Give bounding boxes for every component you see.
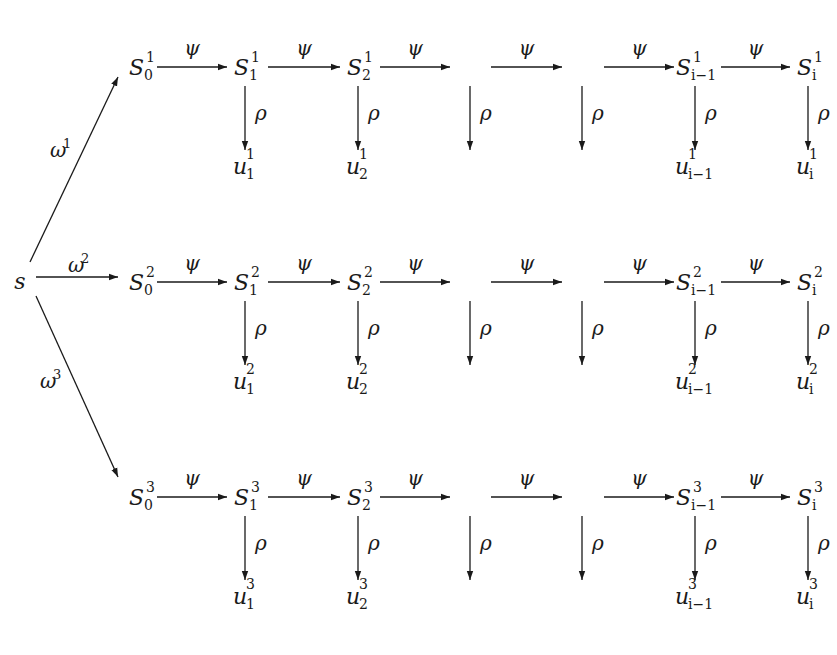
output-u-row3-col2: u23 <box>346 576 368 612</box>
svg-text:S: S <box>129 270 144 295</box>
rho-label-row3-col6: ρ <box>817 531 830 555</box>
node-row2-col6: Si2 <box>797 264 823 298</box>
psi-label-row1-4: ψ <box>631 36 647 60</box>
psi-label-row1-1: ψ <box>296 36 312 60</box>
output-u-row3-col5: ui−13 <box>675 576 713 612</box>
output-u-row1-col1: u11 <box>233 146 255 182</box>
svg-text:i: i <box>809 596 814 612</box>
node-row2-col1: S12 <box>234 264 260 298</box>
output-u-row1-col2: u21 <box>346 146 368 182</box>
svg-text:2: 2 <box>688 361 697 377</box>
svg-text:S: S <box>347 55 362 80</box>
svg-text:S: S <box>347 485 362 510</box>
source-node-s: s <box>14 269 25 294</box>
svg-text:1: 1 <box>246 381 255 397</box>
svg-text:1: 1 <box>688 146 697 162</box>
svg-text:i: i <box>812 282 817 298</box>
output-u-row2-col2: u22 <box>346 361 368 397</box>
svg-text:2: 2 <box>146 264 155 280</box>
svg-text:2: 2 <box>359 166 368 182</box>
svg-text:1: 1 <box>246 166 255 182</box>
branch-label-omega-1: ω1 <box>50 136 71 162</box>
rho-label-row3-col3: ρ <box>479 531 492 555</box>
svg-text:1: 1 <box>251 49 260 65</box>
svg-text:S: S <box>234 270 249 295</box>
svg-text:3: 3 <box>251 479 260 495</box>
svg-text:2: 2 <box>251 264 260 280</box>
svg-text:2: 2 <box>814 264 823 280</box>
output-u-row1-col6: ui1 <box>796 146 818 182</box>
node-row2-col5: Si−12 <box>676 264 716 298</box>
rho-label-row3-col1: ρ <box>254 531 267 555</box>
branch-arrow-1 <box>30 77 118 262</box>
svg-text:3: 3 <box>364 479 373 495</box>
node-row1-col1: S11 <box>234 49 260 83</box>
node-row2-col0: S02 <box>129 264 155 298</box>
psi-label-row2-3: ψ <box>519 251 535 275</box>
svg-text:2: 2 <box>246 361 255 377</box>
output-u-row1-col5: ui−11 <box>675 146 713 182</box>
branch-label-omega-2: ω2 <box>68 251 89 277</box>
labels-layer: sω1ω2ω3S01S11S21Si−11Si1ψψψψψψρu11ρu21ρρ… <box>14 36 830 612</box>
svg-text:S: S <box>129 485 144 510</box>
psi-label-row3-2: ψ <box>407 466 423 490</box>
svg-text:S: S <box>234 55 249 80</box>
svg-text:1: 1 <box>814 49 823 65</box>
node-row3-col0: S03 <box>129 479 155 513</box>
commutative-diagram: sω1ω2ω3S01S11S21Si−11Si1ψψψψψψρu11ρu21ρρ… <box>0 0 837 655</box>
psi-label-row3-1: ψ <box>296 466 312 490</box>
svg-text:1: 1 <box>364 49 373 65</box>
psi-label-row2-1: ψ <box>296 251 312 275</box>
svg-text:S: S <box>234 485 249 510</box>
rho-label-row1-col1: ρ <box>254 101 267 125</box>
node-row3-col6: Si3 <box>797 479 823 513</box>
rho-label-row2-col1: ρ <box>254 316 267 340</box>
svg-text:2: 2 <box>359 596 368 612</box>
svg-text:1: 1 <box>249 497 258 513</box>
svg-text:S: S <box>129 55 144 80</box>
svg-text:3: 3 <box>814 479 823 495</box>
output-u-row2-col1: u12 <box>233 361 255 397</box>
svg-text:1: 1 <box>246 596 255 612</box>
svg-text:3: 3 <box>246 576 255 592</box>
rho-label-row2-col3: ρ <box>479 316 492 340</box>
svg-text:2: 2 <box>809 361 818 377</box>
node-row3-col2: S23 <box>347 479 373 513</box>
node-row1-col0: S01 <box>129 49 155 83</box>
svg-text:i: i <box>812 497 817 513</box>
psi-label-row3-5: ψ <box>748 466 764 490</box>
svg-text:2: 2 <box>362 282 371 298</box>
svg-text:i−1: i−1 <box>688 596 713 612</box>
node-row1-col5: Si−11 <box>676 49 716 83</box>
svg-text:i: i <box>812 67 817 83</box>
svg-text:1: 1 <box>146 49 155 65</box>
svg-text:2: 2 <box>364 264 373 280</box>
psi-label-row1-5: ψ <box>748 36 764 60</box>
psi-label-row1-0: ψ <box>184 36 200 60</box>
svg-text:1: 1 <box>63 136 71 151</box>
node-row2-col2: S22 <box>347 264 373 298</box>
rho-label-row1-col4: ρ <box>591 101 604 125</box>
svg-text:i: i <box>809 166 814 182</box>
psi-label-row2-0: ψ <box>184 251 200 275</box>
svg-text:i−1: i−1 <box>691 282 716 298</box>
rho-label-row2-col5: ρ <box>704 316 717 340</box>
output-u-row2-col6: ui2 <box>796 361 818 397</box>
psi-label-row2-2: ψ <box>407 251 423 275</box>
svg-text:i−1: i−1 <box>688 381 713 397</box>
rho-label-row1-col5: ρ <box>704 101 717 125</box>
svg-text:3: 3 <box>809 576 818 592</box>
svg-text:3: 3 <box>693 479 702 495</box>
psi-label-row2-4: ψ <box>631 251 647 275</box>
psi-label-row3-0: ψ <box>184 466 200 490</box>
output-u-row3-col1: u13 <box>233 576 255 612</box>
svg-text:i−1: i−1 <box>691 67 716 83</box>
svg-text:S: S <box>676 485 691 510</box>
svg-text:S: S <box>797 485 812 510</box>
svg-text:3: 3 <box>53 367 61 382</box>
svg-text:S: S <box>797 270 812 295</box>
svg-text:1: 1 <box>693 49 702 65</box>
node-row1-col2: S21 <box>347 49 373 83</box>
branch-label-omega-3: ω3 <box>40 367 61 393</box>
svg-text:0: 0 <box>144 497 153 513</box>
